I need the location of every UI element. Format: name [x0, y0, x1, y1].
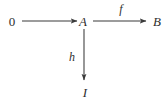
node-label-I: I — [83, 86, 87, 99]
commutative-diagram: 0 A B I f h — [0, 0, 167, 102]
node-label-A: A — [79, 15, 87, 28]
node-label-B: B — [153, 15, 161, 28]
edge-label-h: h — [69, 51, 75, 63]
node-label-zero: 0 — [9, 15, 16, 28]
edge-label-f: f — [119, 3, 122, 15]
